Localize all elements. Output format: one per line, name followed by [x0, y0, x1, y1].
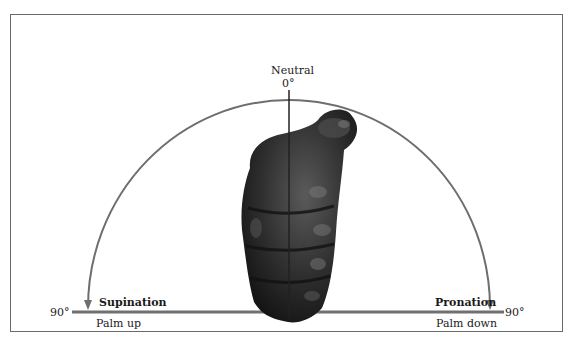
neutral-label: Neutral	[271, 65, 314, 76]
supination-label: Supination	[99, 297, 167, 308]
fist-illustration	[241, 110, 357, 323]
palm-up-label: Palm up	[96, 318, 141, 329]
pronation-label: Pronation	[435, 297, 496, 308]
arrow-down-left-icon	[84, 300, 92, 310]
neutral-angle: 0°	[282, 78, 295, 89]
rotation-diagram	[0, 0, 572, 347]
left-angle: 90°	[50, 307, 70, 318]
right-angle: 90°	[505, 307, 525, 318]
palm-down-label: Palm down	[436, 318, 497, 329]
